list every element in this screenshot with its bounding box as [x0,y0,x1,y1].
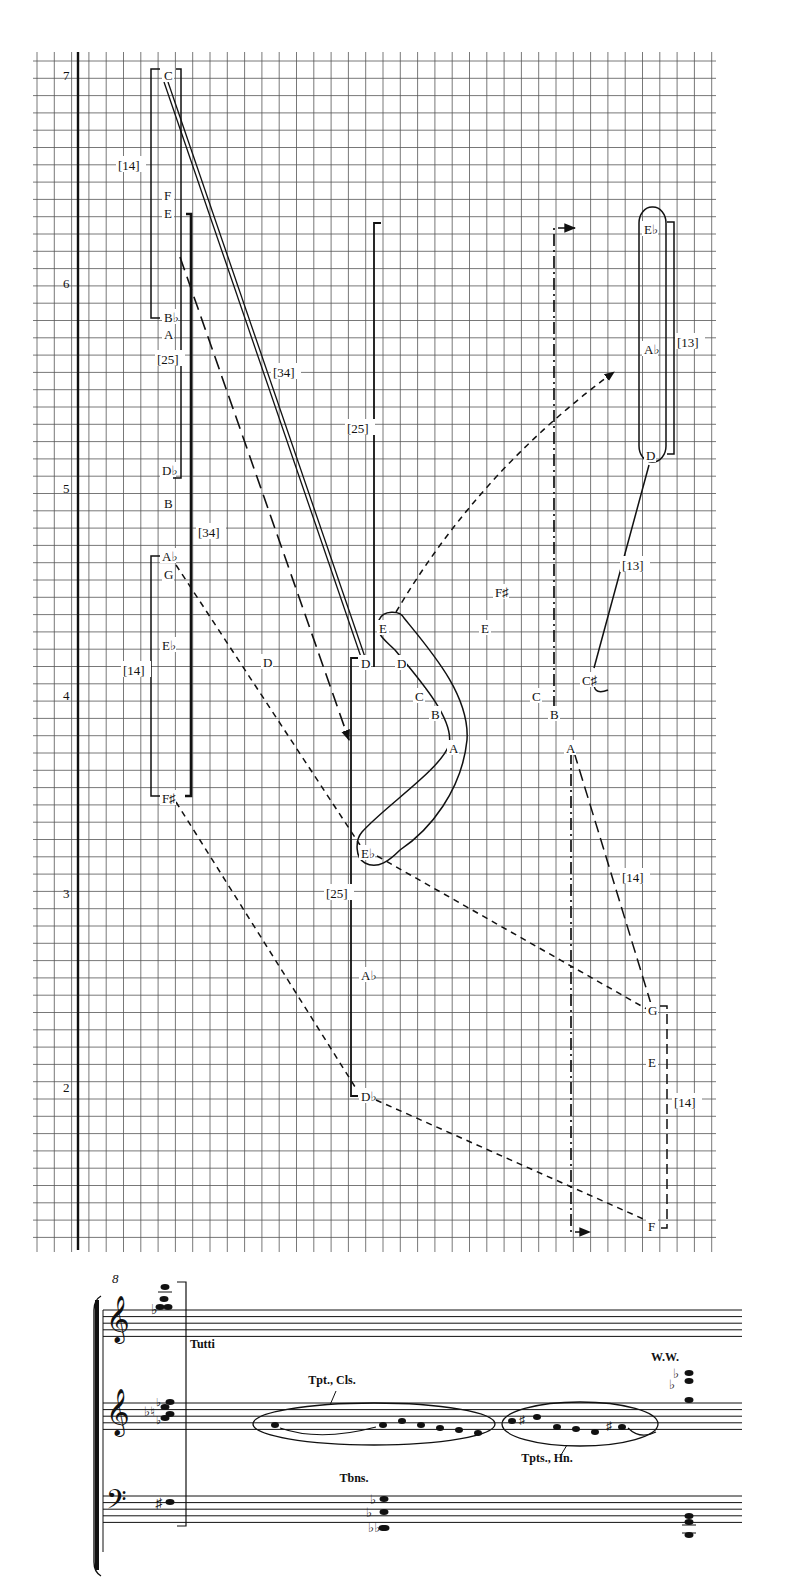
svg-text:♯: ♯ [155,1496,163,1511]
instrument-label: Tbns. [339,1471,368,1485]
treble-clef-icon: 𝄞 [106,1296,130,1344]
interval-class-label: [25] [326,886,348,901]
note-label: E [379,621,387,636]
svg-text:♭♮: ♭♮ [144,1404,155,1419]
interval-class-label: [13] [677,335,699,350]
interval-class-label: [14] [674,1095,696,1110]
ww-chord: ♭ ♭ [669,1366,694,1403]
note-label: A [449,741,459,756]
interval-class-label: [14] [123,663,145,678]
note-label: D♭ [361,1089,377,1104]
note-label: F [648,1219,655,1234]
register-label: 4 [63,688,70,703]
register-axis-labels: 765432 [63,68,70,1095]
register-label: 5 [63,481,70,496]
interval-class-label: [25] [157,352,179,367]
note-label: D [646,448,655,463]
svg-text:♯: ♯ [519,1413,525,1427]
bass-final-chord [682,1513,696,1538]
note-label: B [431,707,440,722]
note-label: B [164,496,173,511]
note-label: E♭ [644,222,658,237]
note-label: G [648,1003,657,1018]
note-label: B [550,707,559,722]
note-label: A♭ [361,968,377,983]
note-label: F♯ [495,585,509,600]
dashed-connectors [176,372,652,1222]
note-label: E [164,206,172,221]
instrument-label: W.W. [651,1350,679,1364]
score-system [94,1282,742,1576]
note-labels: CFEB♭AD♭BA♭GE♭F♯DDEDCBAE♭A♭D♭F♯ECBAC♯E♭A… [160,67,660,1234]
note-label: F [164,188,171,203]
note-label: E [648,1055,656,1070]
interval-class-label: [34] [273,365,295,380]
svg-text:♯: ♯ [606,1419,612,1433]
note-label: C [532,689,541,704]
note-label: F♯ [162,791,176,806]
oval-group-top-right [639,207,674,462]
note-label: E♭ [162,638,176,653]
line-d-to-csharp [594,465,649,692]
note-label: A [566,741,576,756]
svg-text:♭: ♭ [366,1505,372,1520]
register-label: 7 [63,68,70,83]
treble-clef-icon: 𝄞 [106,1389,130,1437]
svg-text:♭: ♭ [156,1414,161,1426]
svg-text:♭: ♭ [669,1377,675,1392]
note-label: D [361,656,370,671]
note-label: C [415,689,424,704]
interval-class-label: [13] [622,558,644,573]
note-label: A [164,327,174,342]
note-label: C♯ [582,673,597,688]
note-label: A♭ [162,549,178,564]
note-label: G [164,567,173,582]
note-label: E♭ [361,846,375,861]
tutti-chords: ♭ ♭♮ ♭ ♭ ♯ [144,1284,175,1511]
clefs: 𝄞 𝄞 𝄢 [106,1296,130,1521]
bass-clef-icon: 𝄢 [106,1485,127,1521]
tpt-cls-phrase [253,1391,495,1445]
note-label: D♭ [162,463,178,478]
instrument-label: Tpt., Cls. [308,1373,355,1387]
note-label: A♭ [644,342,660,357]
note-label: D [263,655,272,670]
register-label: 2 [63,1080,70,1095]
bracket-group-left-top [151,69,191,796]
interval-class-label: [34] [198,525,220,540]
dashed-bracket-g-to-f [660,1006,667,1228]
pitch-space-diagram: 765432 [0,0,785,1578]
interval-class-label: [14] [622,870,644,885]
note-label: C [164,68,173,83]
interval-class-label: [25] [347,421,369,436]
note-label: E [481,621,489,636]
note-label: D [397,656,406,671]
register-label: 3 [63,886,70,901]
score-labels: 8 Tutti Tpt., Cls.Tpts., Hn.Tbns.W.W. [112,1271,679,1485]
tbns-chord: ♭ ♭ ♭♭ [366,1492,390,1535]
svg-text:♭: ♭ [151,1302,158,1317]
tutti-label: Tutti [190,1337,216,1351]
interval-class-label: [14] [118,158,140,173]
interval-labels: [14][25][34][25][34][14][25][13][13][14]… [116,156,705,1110]
svg-text:♭♭: ♭♭ [368,1520,380,1535]
measure-number: 8 [112,1271,119,1286]
register-label: 6 [63,276,70,291]
note-label: B♭ [164,310,179,325]
instrument-label: Tpts., Hn. [521,1451,572,1465]
svg-text:♭: ♭ [156,1396,161,1408]
double-line-c-to-d [164,82,366,660]
